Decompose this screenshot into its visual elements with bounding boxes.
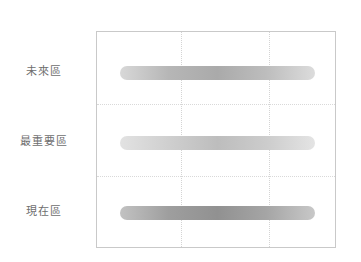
horizontal-gridline-2 bbox=[97, 176, 335, 177]
plot-area bbox=[96, 31, 336, 248]
category-label-present-zone: 現在區 bbox=[0, 205, 88, 218]
category-label-most-important-zone: 最重要區 bbox=[0, 135, 88, 148]
bar-present-zone bbox=[120, 206, 315, 220]
chart-canvas: 未來區 最重要區 現在區 bbox=[0, 0, 361, 262]
bar-future-zone bbox=[120, 66, 315, 80]
horizontal-gridline-1 bbox=[97, 104, 335, 105]
bar-most-important-zone bbox=[120, 136, 315, 150]
category-label-future-zone: 未來區 bbox=[0, 65, 88, 78]
top-caption-text bbox=[46, 0, 256, 6]
